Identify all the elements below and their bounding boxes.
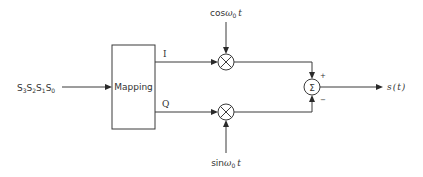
multiplier-sin-icon — [218, 104, 234, 120]
cos-carrier-label: cosω0t — [210, 8, 242, 19]
output-label: s(t) — [387, 82, 406, 92]
sin-carrier-label: sinω0t — [211, 158, 241, 169]
q-product-arrow-head — [309, 95, 315, 102]
i-product-arrow-head — [309, 72, 315, 79]
qam-modulator-diagram: S3S2S1S0 Mapping I Q cosω0t sinω0t Σ + − — [0, 0, 423, 177]
input-arrow-head — [105, 84, 112, 90]
q-product-line — [234, 101, 312, 112]
summer-minus-sign: − — [320, 96, 326, 104]
q-branch-arrow-head — [211, 109, 218, 115]
input-bits-label: S3S2S1S0 — [17, 83, 55, 94]
mapping-label: Mapping — [114, 82, 153, 92]
i-product-line — [234, 62, 312, 73]
cos-carrier-arrow-head — [223, 47, 229, 54]
q-branch-label: Q — [162, 99, 169, 109]
summer-sigma-icon: Σ — [309, 83, 315, 93]
sin-carrier-arrow-head — [223, 120, 229, 127]
i-branch-label: I — [163, 49, 167, 59]
summer-plus-sign: + — [320, 72, 326, 80]
output-arrow-head — [376, 84, 383, 90]
multiplier-cos-icon — [218, 54, 234, 70]
i-branch-arrow-head — [211, 59, 218, 65]
